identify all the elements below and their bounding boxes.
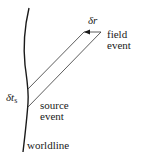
- spacetime-diagram: [0, 0, 144, 158]
- delta-r-label: δr: [88, 15, 97, 26]
- field-event-label: field event: [107, 29, 131, 51]
- delta-t-text: δt: [6, 91, 14, 103]
- delta-t-subscript: s: [14, 96, 17, 105]
- delta-t-s-label: δts: [6, 92, 17, 104]
- worldline-text: worldline: [27, 139, 69, 151]
- delta-r-text: δr: [88, 14, 97, 26]
- field-event-line2: event: [107, 40, 131, 51]
- null-line-upper: [27, 32, 84, 90]
- source-event-label: source event: [40, 100, 69, 122]
- source-event-line2: event: [40, 111, 69, 122]
- null-line-lower: [28, 32, 101, 107]
- arrow-left-icon: [84, 30, 90, 35]
- worldline-curve: [23, 8, 29, 152]
- worldline-label: worldline: [27, 140, 69, 151]
